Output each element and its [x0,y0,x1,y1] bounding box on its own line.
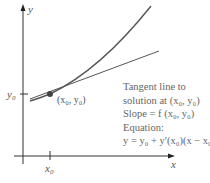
tangent-caption: Tangent line to solution at (x₀, y₀) Slo… [123,80,210,148]
point-label: (x₀, y₀) [57,94,86,106]
caption-line-5: y = y₀ + y′(x₀)(x − x₀) [123,134,210,148]
caption-line-4: Equation: [123,121,210,135]
x-axis-label: x [170,158,176,170]
caption-line-1: Tangent line to [123,80,210,94]
tangent-point [47,91,53,97]
caption-line-2: solution at (x₀, y₀) [123,94,210,108]
y-axis-arrow-icon [21,4,26,11]
caption-line-3: Slope = f (x₀, y₀) [123,107,210,121]
y0-label: y0 [6,88,16,102]
y-axis-label: y [27,3,33,15]
x0-label: x0 [44,162,54,176]
